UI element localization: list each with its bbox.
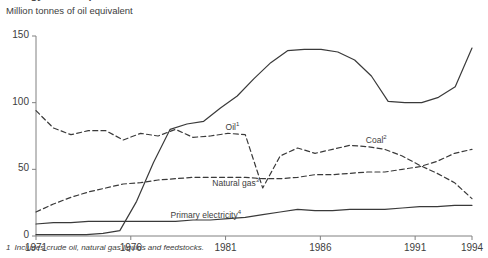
footnote-text: Includes crude oil, natural gas liquids … xyxy=(14,243,203,252)
footnote-number: 1 xyxy=(6,243,10,252)
x-axis-tick-label: 1981 xyxy=(205,242,247,253)
x-axis-tick-label: 1991 xyxy=(394,242,436,253)
series-line-oil xyxy=(36,48,472,235)
series-label-footnote-marker: 4 xyxy=(238,209,241,215)
footnote: 1Includes crude oil, natural gas liquids… xyxy=(6,243,204,252)
y-axis-tick-label: 0 xyxy=(3,229,29,240)
series-label-text: Natural gas xyxy=(212,177,255,187)
series-label-text: Oil xyxy=(226,121,236,131)
series-annotation-oil: Oil1 xyxy=(226,121,240,132)
x-axis-tick-label: 1994 xyxy=(451,242,488,253)
series-label-footnote-marker: 3 xyxy=(256,177,259,183)
series-label-text: Primary electricity xyxy=(171,209,238,219)
series-label-footnote-marker: 2 xyxy=(383,134,386,140)
y-axis-tick-label: 50 xyxy=(3,162,29,173)
y-axis-tick-label: 150 xyxy=(3,29,29,40)
y-axis-tick-label: 100 xyxy=(3,96,29,107)
series-annotation-primary-electricity: Primary electricity4 xyxy=(171,209,241,220)
series-annotation-natural-gas: Natural gas3 xyxy=(212,177,259,188)
series-label-footnote-marker: 1 xyxy=(236,121,239,127)
series-line-primary-electricity xyxy=(36,205,472,224)
x-axis-tick-label: 1986 xyxy=(299,242,341,253)
series-label-text: Coal xyxy=(366,135,383,145)
series-annotation-coal: Coal2 xyxy=(366,134,387,145)
